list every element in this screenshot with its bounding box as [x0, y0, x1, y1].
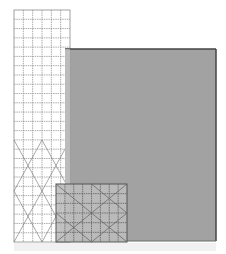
quilting-ruler-diagram: [0, 0, 226, 254]
diagram-canvas: [0, 0, 226, 254]
reflection-band: [14, 243, 216, 251]
small-square-ruler: [56, 184, 127, 242]
floor-reflection: [14, 243, 216, 251]
